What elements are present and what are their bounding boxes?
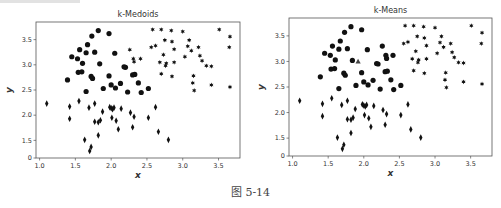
x-tick-label: 3.0	[430, 160, 440, 168]
figure-caption: 图 5-14	[0, 183, 501, 199]
star-marker	[172, 47, 176, 52]
x-tick-label: 3.5	[213, 162, 223, 170]
star-marker	[456, 60, 460, 65]
star-marker	[170, 39, 174, 44]
star-marker	[449, 41, 453, 46]
circle-marker	[77, 47, 82, 52]
y-tick-label: 2.0	[22, 111, 32, 119]
circle-marker	[380, 44, 385, 49]
circle-marker	[332, 66, 337, 71]
star-marker	[158, 60, 162, 65]
diamond-marker	[93, 118, 96, 125]
diamond-marker	[409, 126, 412, 133]
star-marker	[422, 71, 426, 76]
star-marker	[191, 81, 195, 86]
series-cluster-2	[298, 95, 422, 152]
y-tick-label: 2.5	[275, 83, 285, 91]
star-marker	[159, 27, 163, 32]
circle-marker	[84, 89, 89, 94]
circle-marker	[328, 53, 333, 58]
star-marker	[227, 45, 231, 50]
star-marker	[228, 34, 232, 39]
star-marker	[200, 58, 204, 63]
circle-marker	[318, 74, 323, 79]
x-axis-label: x	[134, 170, 142, 180]
chart-title: k-Means	[374, 6, 407, 15]
star-marker	[422, 24, 426, 29]
diamond-marker	[83, 137, 86, 144]
star-marker	[441, 45, 445, 50]
diamond-marker	[110, 114, 113, 121]
star-marker	[209, 83, 213, 88]
star-marker	[479, 41, 483, 46]
y-tick-label: 2.0	[275, 109, 285, 117]
diamond-marker	[93, 100, 96, 107]
y-tick-label: 2.5	[22, 86, 32, 94]
diamond-marker	[97, 132, 100, 139]
circle-marker	[97, 61, 102, 66]
circle-marker	[353, 83, 358, 88]
centroid-triangle-marker	[355, 59, 360, 64]
circle-marker	[333, 57, 338, 62]
star-marker	[183, 54, 187, 59]
series-cluster-3	[128, 27, 232, 93]
x-tick-label: 2.5	[394, 160, 404, 168]
diamond-marker	[147, 114, 150, 121]
y-tick-label: 3.5	[22, 36, 32, 44]
star-marker	[217, 27, 221, 32]
star-marker	[209, 64, 213, 69]
series-cluster-1	[65, 28, 151, 95]
circle-marker	[101, 86, 106, 91]
diamond-marker	[101, 108, 104, 115]
circle-marker	[338, 38, 343, 43]
circle-marker	[80, 61, 85, 66]
star-marker	[469, 23, 473, 28]
star-marker	[172, 60, 176, 65]
y-axis-label: y	[256, 83, 266, 90]
circle-marker	[342, 30, 347, 35]
star-marker	[415, 34, 419, 39]
star-marker	[443, 77, 447, 82]
circle-marker	[139, 90, 144, 95]
star-marker	[151, 27, 155, 32]
diamond-marker	[119, 105, 122, 112]
series-cluster-1	[318, 24, 404, 92]
star-marker	[438, 40, 442, 45]
star-marker	[170, 74, 174, 79]
star-marker	[480, 30, 484, 35]
diamond-marker	[372, 103, 375, 110]
star-marker	[439, 34, 443, 39]
y-tick-label: 0	[281, 152, 285, 160]
diamond-marker	[406, 101, 409, 108]
star-marker	[424, 56, 428, 61]
circle-marker	[343, 73, 348, 78]
circle-marker	[75, 56, 80, 61]
circle-marker	[348, 24, 353, 29]
diamond-marker	[336, 134, 339, 141]
circle-marker	[388, 77, 393, 82]
star-marker	[169, 28, 173, 33]
x-tick-label: 1.0	[34, 162, 44, 170]
circle-marker	[336, 86, 341, 91]
y-tick-label: 1.5	[22, 137, 32, 145]
series-centroid	[355, 59, 360, 64]
diamond-marker	[346, 98, 349, 105]
circle-marker	[370, 78, 375, 83]
star-marker	[410, 56, 414, 61]
star-marker	[163, 38, 167, 43]
diamond-marker	[45, 100, 48, 107]
x-axis-label: x	[387, 168, 395, 178]
star-marker	[131, 56, 135, 61]
star-marker	[452, 55, 456, 60]
circle-marker	[132, 72, 137, 77]
diamond-marker	[298, 98, 301, 105]
circle-marker	[79, 69, 84, 74]
y-tick-label: 3.0	[22, 61, 32, 69]
y-axis-label: y	[4, 86, 14, 93]
star-marker	[149, 45, 153, 50]
circle-marker	[378, 86, 383, 91]
diamond-marker	[132, 113, 135, 120]
series-cluster-2	[45, 98, 170, 154]
diamond-marker	[167, 137, 170, 144]
x-tick-label: 2.0	[359, 160, 369, 168]
